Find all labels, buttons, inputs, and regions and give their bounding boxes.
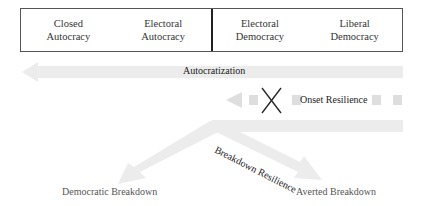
cross-icon (262, 88, 281, 113)
autocratization-label: Autocratization (183, 65, 245, 76)
democratic-breakdown-label: Democratic Breakdown (62, 186, 157, 197)
onset-resilience-label: Onset Resilience (300, 94, 367, 105)
averted-breakdown-label: Averted Breakdown (296, 186, 376, 197)
